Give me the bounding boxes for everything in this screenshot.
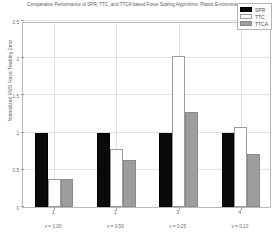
y-tick-mark (21, 57, 24, 58)
legend-item-spr: SPR (240, 6, 268, 13)
x-group-sublabel: v = 0.10 (213, 224, 267, 229)
y-tick-label: 1 (5, 131, 19, 136)
bar-spr-group-3 (159, 133, 172, 207)
legend-label-ttca: TTCA (255, 21, 268, 27)
y-tick-label: 0 (5, 206, 19, 211)
legend-label-ttc: TTC (255, 14, 265, 20)
legend-label-spr: SPR (255, 7, 265, 13)
bar-ttc-group-3 (172, 56, 185, 207)
bar-ttca-group-2 (123, 160, 136, 207)
bar-ttc-group-2 (110, 149, 123, 207)
bar-ttca-group-3 (185, 112, 198, 207)
y-tick-label: 0.5 (5, 168, 19, 173)
legend-swatch-spr (240, 7, 252, 12)
bar-ttc-group-1 (48, 179, 61, 207)
bar-ttc-group-4 (234, 127, 247, 207)
y-tick-label: 2 (5, 57, 19, 62)
gridline-horizontal (23, 94, 270, 95)
bar-ttca-group-4 (247, 154, 260, 207)
x-tick-label: 1 (43, 209, 63, 215)
y-tick-label: 2.5 (5, 20, 19, 25)
legend-item-ttca: TTCA (240, 20, 268, 27)
y-axis-title: Normalized RMS Force Tracking Error (8, 16, 13, 146)
legend-swatch-ttc (240, 14, 252, 19)
bar-spr-group-2 (97, 133, 110, 207)
gridline-horizontal (23, 57, 270, 58)
y-tick-mark (21, 206, 24, 207)
x-tick-label: 3 (168, 209, 188, 215)
x-group-sublabel: v = 0.50 (88, 224, 142, 229)
x-tick-label: 4 (230, 209, 250, 215)
y-tick-mark (21, 94, 24, 95)
bar-spr-group-1 (35, 133, 48, 207)
figure-canvas: Comparative Performance of SPR, TTC, and… (0, 0, 275, 241)
x-group-sublabel: v = 1.00 (26, 224, 80, 229)
y-tick-mark (21, 169, 24, 170)
x-group-sublabel: v = 0.25 (151, 224, 205, 229)
chart-legend: SPR TTC TTCA (237, 3, 272, 30)
y-tick-label: 1.5 (5, 94, 19, 99)
bar-ttca-group-1 (61, 179, 74, 207)
y-tick-mark (21, 132, 24, 133)
x-tick-label: 2 (105, 209, 125, 215)
bar-spr-group-4 (222, 133, 235, 207)
plot-area (22, 22, 271, 208)
gridline-horizontal (23, 20, 270, 21)
legend-swatch-ttca (240, 21, 252, 26)
y-tick-mark (21, 20, 24, 21)
legend-item-ttc: TTC (240, 13, 268, 20)
